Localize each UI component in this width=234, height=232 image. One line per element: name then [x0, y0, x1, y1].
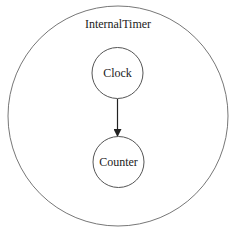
node-clock-label: Clock — [103, 66, 132, 80]
container-label: InternalTimer — [85, 17, 151, 31]
diagram-canvas: InternalTimer Clock Counter — [0, 0, 234, 232]
node-counter[interactable]: Counter — [93, 137, 144, 188]
node-counter-label: Counter — [99, 155, 138, 169]
node-clock[interactable]: Clock — [92, 48, 143, 99]
